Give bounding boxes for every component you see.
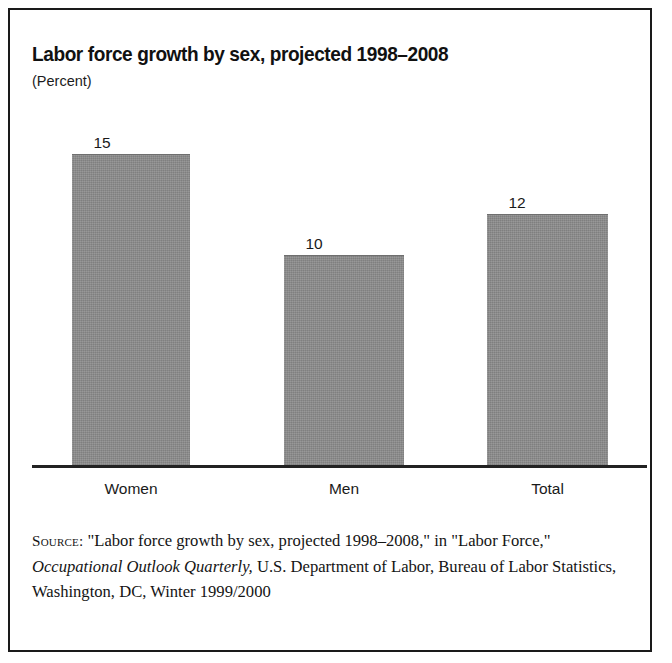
figure-frame: Labor force growth by sex, projected 199… xyxy=(8,8,652,652)
bar-men xyxy=(284,255,404,466)
source-text-part-1: "Labor force growth by sex, projected 19… xyxy=(83,531,550,550)
source-label: Source: xyxy=(32,532,83,549)
bar-total xyxy=(487,214,608,466)
bar-women xyxy=(72,154,190,466)
source-note: Source: "Labor force growth by sex, proj… xyxy=(32,528,640,605)
category-label-total: Total xyxy=(457,480,638,498)
bar-value-label-total: 12 xyxy=(457,194,577,212)
bar-value-label-women: 15 xyxy=(42,134,162,152)
bar-value-label-men: 10 xyxy=(254,235,374,253)
category-label-men: Men xyxy=(254,480,434,498)
category-label-women: Women xyxy=(42,480,220,498)
x-axis-baseline xyxy=(32,465,647,468)
source-journal-title: Occupational Outlook Quarterly, xyxy=(32,557,253,576)
